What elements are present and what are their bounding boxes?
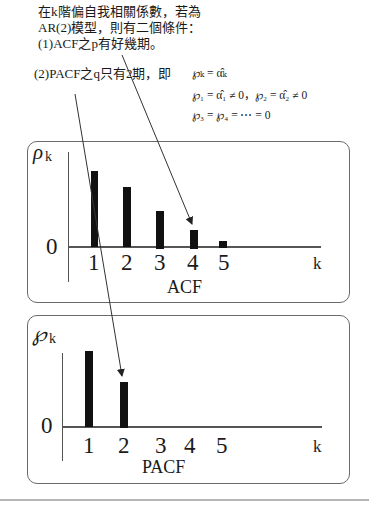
acf-bar-2 <box>123 187 131 247</box>
acf-title: ACF <box>167 277 202 298</box>
formula-1: ℘ₖ = α̂ₖ <box>192 66 227 80</box>
note-line-1: 在k階偏自我相關係數，若為 <box>38 4 201 19</box>
acf-bar-3 <box>156 211 164 249</box>
acf-zero-label: 0 <box>46 235 58 258</box>
pacf-bar-2 <box>120 382 128 428</box>
formula-3: ℘₃ = ℘₄ = ⋯ = 0 <box>192 108 270 122</box>
acf-y-axis <box>68 152 69 282</box>
acf-bar-5 <box>219 241 227 248</box>
note-line-3: (1)ACF之p有好幾期。 <box>38 36 163 51</box>
acf-bar-1 <box>91 171 98 247</box>
note-line-2: AR(2)模型，則有二個條件： <box>38 20 201 35</box>
acf-ylabel: ρk <box>33 140 52 165</box>
formula-2: ℘₁ = α̂₁ ≠ 0，℘₂ = α̂₂ ≠ 0 <box>192 86 307 102</box>
pacf-ylabel: ℘k <box>32 322 56 347</box>
pacf-x-label: k <box>313 437 322 457</box>
pacf-tick-2: 2 <box>118 434 130 457</box>
pacf-bar-1 <box>85 351 93 427</box>
pacf-title: PACF <box>142 457 185 478</box>
pacf-tick-5: 5 <box>216 434 228 457</box>
pacf-panel <box>27 315 350 484</box>
acf-tick-2: 2 <box>121 251 133 274</box>
pacf-tick-4: 4 <box>184 434 196 457</box>
pacf-y-axis <box>62 353 63 461</box>
note-line-4: (2)PACF之q只有2期，即 <box>34 66 171 81</box>
pacf-zero-label: 0 <box>41 414 53 437</box>
bottom-divider <box>0 499 369 501</box>
acf-x-label: k <box>313 254 322 274</box>
pacf-tick-3: 3 <box>155 434 167 457</box>
acf-bar-4 <box>190 230 198 249</box>
pacf-tick-1: 1 <box>83 434 95 457</box>
acf-tick-3: 3 <box>154 251 166 274</box>
pacf-x-axis <box>62 426 322 428</box>
acf-tick-4: 4 <box>187 251 199 274</box>
acf-tick-5: 5 <box>218 251 230 274</box>
acf-tick-1: 1 <box>88 251 100 274</box>
